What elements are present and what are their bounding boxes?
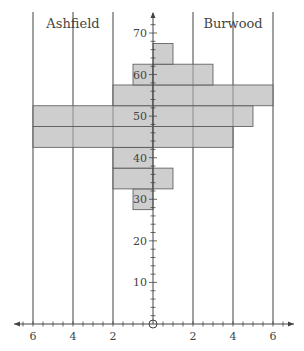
left-group-label: Ashfield bbox=[45, 16, 99, 31]
bar-burwood bbox=[153, 85, 273, 106]
y-tick-label: 10 bbox=[133, 276, 147, 289]
x-tick-label: 4 bbox=[230, 330, 237, 343]
y-tick-label: 70 bbox=[133, 27, 147, 40]
back-to-back-histogram: 10203040506070642246 Ashfield Burwood bbox=[0, 0, 304, 351]
bar-burwood bbox=[153, 168, 173, 189]
right-group-label: Burwood bbox=[203, 16, 262, 31]
bar-burwood bbox=[153, 106, 253, 127]
y-axis-arrow-icon bbox=[151, 12, 156, 18]
bar-ashfield bbox=[113, 85, 153, 106]
y-tick-label: 30 bbox=[133, 193, 147, 206]
bar-burwood bbox=[153, 64, 213, 85]
y-tick-label: 50 bbox=[133, 110, 147, 123]
x-tick-label: 4 bbox=[70, 330, 77, 343]
x-tick-label: 6 bbox=[270, 330, 277, 343]
x-tick-label: 2 bbox=[110, 330, 117, 343]
y-tick-label: 60 bbox=[133, 69, 147, 82]
x-tick-label: 2 bbox=[190, 330, 197, 343]
bar-ashfield bbox=[33, 127, 153, 148]
y-tick-label: 40 bbox=[133, 152, 147, 165]
x-axis-left-arrow-icon bbox=[14, 322, 20, 327]
y-tick-label: 20 bbox=[133, 235, 147, 248]
x-tick-label: 6 bbox=[30, 330, 37, 343]
bar-ashfield bbox=[113, 168, 153, 189]
bar-burwood bbox=[153, 43, 173, 64]
x-axis-right-arrow-icon bbox=[288, 322, 294, 327]
